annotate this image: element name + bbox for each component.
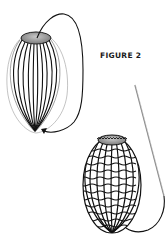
- ribbed-egg: [7, 32, 68, 133]
- figure-illustration: [0, 0, 168, 242]
- netted-egg: [80, 135, 141, 233]
- arrow-head-icon: [41, 128, 47, 134]
- figure-label: FIGURE 2: [100, 51, 141, 60]
